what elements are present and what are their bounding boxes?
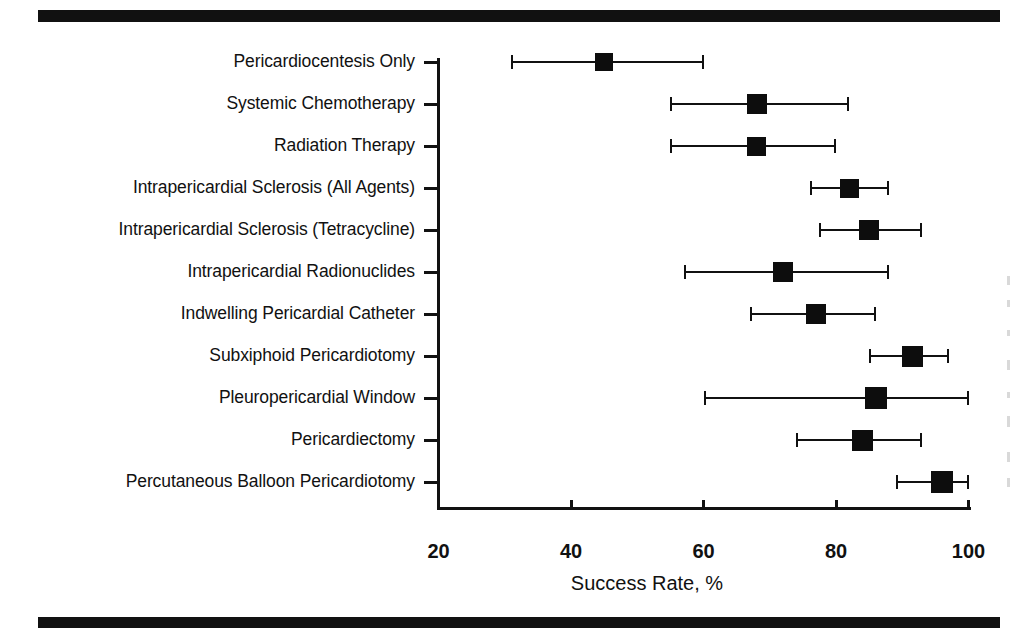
y-axis-tick [424,313,438,316]
x-axis-tick [570,500,573,510]
x-axis-title-text: Success Rate, % [571,572,723,595]
ci-cap-upper [967,391,969,405]
ci-cap-lower [869,349,871,363]
x-axis-tick [835,500,838,510]
ci-cap-upper [887,181,889,195]
y-axis-label-5: Intrapericardial Radionuclides [187,261,415,281]
ci-cap-upper [920,433,922,447]
y-axis-label-6: Indwelling Pericardial Catheter [181,303,415,323]
ci-cap-lower [796,433,798,447]
point-estimate-marker [852,430,873,451]
y-axis-tick [424,187,438,190]
y-axis-label-1: Systemic Chemotherapy [226,93,415,113]
ci-cap-lower [810,181,812,195]
point-estimate-marker [806,304,826,324]
ci-cap-lower [670,97,672,111]
point-estimate-marker [595,53,613,71]
y-axis-label-0: Pericardiocentesis Only [233,51,415,71]
plot-area: Pericardiocentesis OnlySystemic Chemothe… [0,0,1029,610]
y-axis-label-10: Percutaneous Balloon Pericardiotomy [126,471,415,491]
point-estimate-marker [747,137,766,156]
y-axis-label-4: Intrapericardial Sclerosis (Tetracycline… [119,219,415,239]
confidence-interval-line [704,397,969,399]
ci-cap-lower [704,391,706,405]
x-axis-tick-label-20: 20 [427,540,449,563]
ci-cap-upper [874,307,876,321]
scan-speck [1007,392,1010,398]
x-axis-tick-label-40: 40 [560,540,582,563]
x-axis-title: Success Rate, % [0,572,1029,595]
y-axis-tick [424,103,438,106]
point-estimate-marker [931,471,953,493]
point-estimate-marker [747,94,767,114]
scan-speck [1007,276,1010,285]
y-axis-tick [424,271,438,274]
y-axis-tick [424,481,438,484]
ci-cap-upper [887,265,889,279]
ci-cap-upper [947,349,949,363]
y-axis-tick [424,229,438,232]
ci-cap-lower [684,265,686,279]
ci-cap-upper [702,55,704,69]
ci-cap-lower [511,55,513,69]
point-estimate-marker [840,179,859,198]
x-axis-tick-label-80: 80 [825,540,847,563]
y-axis-label-2: Radiation Therapy [274,135,415,155]
ci-cap-lower [750,307,752,321]
bottom-rule-divider [38,617,1000,628]
y-axis-tick [424,355,438,358]
ci-cap-upper [834,139,836,153]
x-axis-tick [967,500,970,510]
ci-cap-lower [896,475,898,489]
point-estimate-marker [865,387,887,409]
scan-speck [1007,300,1010,307]
y-axis-label-3: Intrapericardial Sclerosis (All Agents) [133,177,415,197]
ci-cap-upper [967,475,969,489]
scan-speck [1007,478,1010,487]
x-axis-tick [437,500,440,510]
y-axis-tick [424,397,438,400]
scan-speck [1007,330,1010,336]
scan-speck [1007,360,1010,370]
point-estimate-marker [773,262,793,282]
scan-speck [1007,416,1010,427]
ci-cap-upper [847,97,849,111]
y-axis-tick [424,61,438,64]
y-axis-label-7: Subxiphoid Pericardiotomy [209,345,415,365]
x-axis-tick [702,500,705,510]
scan-speck [1007,452,1010,462]
ci-cap-lower [819,223,821,237]
y-axis-label-9: Pericardiectomy [291,429,415,449]
forest-plot-figure: Pericardiocentesis OnlySystemic Chemothe… [0,0,1029,638]
ci-cap-lower [670,139,672,153]
x-axis-tick-label-100: 100 [952,540,985,563]
y-axis-label-8: Pleuropericardial Window [219,387,415,407]
ci-cap-upper [920,223,922,237]
y-axis-line [437,58,440,510]
y-axis-tick [424,439,438,442]
y-axis-tick [424,145,438,148]
point-estimate-marker [859,220,879,240]
point-estimate-marker [902,346,923,367]
x-axis-tick-label-60: 60 [692,540,714,563]
